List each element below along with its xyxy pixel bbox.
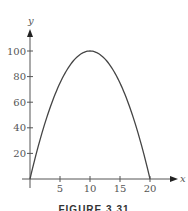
- x-tick-label: 15: [114, 183, 127, 194]
- x-tick-label: 5: [57, 183, 63, 194]
- y-tick-label: 40: [13, 122, 26, 133]
- y-axis-arrow-icon: [27, 29, 33, 37]
- y-tick-label: 20: [13, 148, 26, 159]
- figure-caption: FIGURE 3.31: [0, 204, 188, 211]
- x-tick-label: 20: [144, 183, 157, 194]
- x-axis-label: x: [180, 173, 186, 184]
- y-tick-label: 60: [13, 97, 26, 108]
- y-axis-label: y: [27, 15, 34, 26]
- y-tick-label: 100: [7, 46, 26, 57]
- y-tick-label: 80: [13, 71, 26, 82]
- series-line: [30, 51, 150, 179]
- x-axis-arrow-icon: [170, 176, 178, 182]
- x-tick-label: 10: [84, 183, 97, 194]
- chart-plot: 510152020406080100 x y: [0, 0, 188, 211]
- axes: [22, 29, 178, 188]
- curve: [30, 51, 150, 179]
